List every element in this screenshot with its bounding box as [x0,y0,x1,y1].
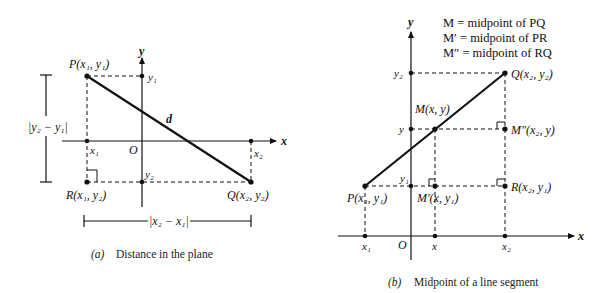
tick-y1-dot [140,74,145,79]
point-r-dot [84,179,89,184]
tick-y-dot [409,127,414,132]
caption-a: Distance in the plane [116,248,213,261]
point-m1-label: M′(x, y₁) [416,191,458,205]
point-p-dot [84,73,89,78]
point-m-label: M(x, y) [414,102,450,116]
tick-y2-dot [140,180,145,185]
caption-b: Midpoint of a line segment [414,276,539,289]
x-axis-label: x [577,229,584,243]
origin-label: O [129,143,138,157]
y-axis-label: y [406,15,414,29]
point-p-dot [362,183,367,188]
point-m2-dot [502,126,507,131]
dashed-guides [365,73,505,236]
diagram-a: x y O d P(x₁, y₁) Q(x₂, y₂) R(x₁, y₂) [26,44,287,261]
point-r-dot [502,183,507,188]
point-q-label: Q(x₂, y₂) [227,188,269,202]
segment-pq [87,76,251,182]
point-p-label: P(x₁, y₁) [346,191,387,205]
tick-x-label: x [431,240,437,252]
caption-a-prefix: (a) [91,248,105,261]
point-q-dot [502,70,507,75]
tick-x2-label: x₂ [501,240,511,252]
diagram-b: x y O M = midpoint of PQ M′ = midpoint o… [338,15,584,289]
point-m1-dot [432,183,437,188]
point-r-label: R(x₁, y₂) [65,188,106,202]
y-axis-label: y [137,44,145,58]
tick-x-dot [433,234,438,239]
caption-b-prefix: (b) [388,276,402,289]
tick-y-label: y [398,123,404,135]
point-m2-label: M″(x₂, y) [510,123,555,137]
tick-x2-label: x₂ [253,147,263,159]
tick-y1-label: y₁ [399,172,409,184]
x-axis-label: x [280,134,287,148]
legend-item-m-double-prime: M″ = midpoint of RQ [443,46,552,60]
right-angle-icons [429,122,505,186]
tick-y1-label: y₁ [147,71,157,83]
point-q-label: Q(x₂, y₂) [511,67,553,81]
distance-label: d [166,112,173,126]
point-p-label: P(x₁, y₁) [68,57,109,71]
tick-x1-label: x₁ [361,240,371,252]
tick-x1-dot [85,139,90,144]
tick-x1-label: x₁ [89,144,99,156]
vertical-measure-label: |y₂ − y₁| [28,120,68,134]
tick-y2-label: y₂ [393,67,403,79]
tick-x2-dot [503,234,508,239]
origin-label: O [398,238,407,252]
horizontal-measure-label: |x₂ − x₁| [149,214,189,228]
tick-x1-dot [363,234,368,239]
legend-item-m-prime: M′ = midpoint of PR [443,31,548,45]
point-r-label: R(x₂, y₁) [510,180,551,194]
tick-y2-dot [409,71,414,76]
point-q-dot [248,179,253,184]
legend-item-m: M = midpoint of PQ [443,16,545,30]
point-m-dot [432,126,437,131]
tick-y1-dot [409,184,414,189]
figure-canvas: x y O d P(x₁, y₁) Q(x₂, y₂) R(x₁, y₂) [0,0,600,293]
tick-y2-label: y₂ [144,168,154,180]
tick-x2-dot [249,139,254,144]
